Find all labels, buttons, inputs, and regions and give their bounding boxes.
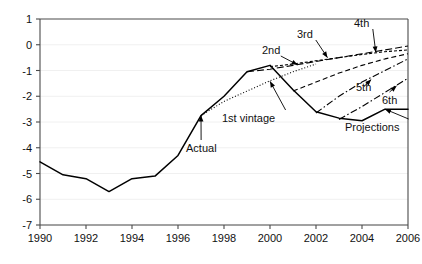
x-tick-label: 1992: [74, 232, 98, 244]
y-tick-label: -5: [22, 168, 32, 180]
x-tick-label: 2002: [304, 232, 328, 244]
x-tick-label: 1998: [212, 232, 236, 244]
y-tick-label: -7: [22, 219, 32, 231]
y-tick-label: 1: [26, 13, 32, 25]
annotation-label-1st-vintage: 1st vintage: [222, 112, 275, 124]
x-tick-label: 2000: [258, 232, 282, 244]
y-tick-label: 0: [26, 39, 32, 51]
x-tick-label: 1994: [120, 232, 144, 244]
y-tick-label: -2: [22, 90, 32, 102]
annotation-label-actual: Actual: [186, 142, 217, 154]
annotation-label-5th: 5th: [356, 81, 371, 93]
x-tick-label: 1996: [166, 232, 190, 244]
annotation-label-3rd: 3rd: [297, 28, 313, 40]
annotation-label-4th: 4th: [354, 17, 369, 29]
x-tick-label: 1990: [28, 232, 52, 244]
y-tick-label: -4: [22, 142, 32, 154]
chart-container: 10-1-2-3-4-5-6-7 19901992199419961998200…: [0, 0, 422, 264]
annotation-label-2nd: 2nd: [262, 44, 280, 56]
line-chart: 10-1-2-3-4-5-6-7 19901992199419961998200…: [0, 0, 422, 264]
x-tick-label: 2004: [350, 232, 374, 244]
annotation-label-6th: 6th: [382, 94, 397, 106]
x-tick-label: 2006: [396, 232, 420, 244]
y-tick-label: -3: [22, 116, 32, 128]
y-tick-label: -1: [22, 65, 32, 77]
y-tick-label: -6: [22, 193, 32, 205]
annotation-label-projections: Projections: [345, 121, 400, 133]
